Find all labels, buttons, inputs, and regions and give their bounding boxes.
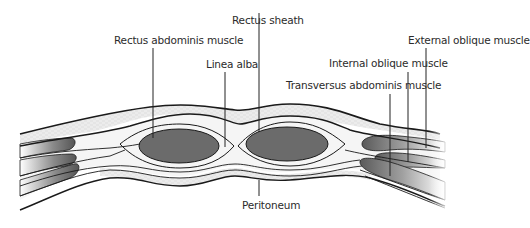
label-peritoneum: Peritoneum	[242, 199, 300, 211]
rectus-abdominis-right	[246, 127, 328, 161]
label-internal-oblique: Internal oblique muscle	[329, 57, 448, 69]
label-transversus-abdominis: Transversus abdominis muscle	[286, 79, 441, 91]
rectus-abdominis-left	[139, 129, 219, 163]
label-rectus-abdominis: Rectus abdominis muscle	[114, 34, 243, 46]
label-external-oblique: External oblique muscle	[408, 34, 530, 46]
label-linea-alba: Linea alba	[206, 58, 258, 70]
label-rectus-sheath: Rectus sheath	[232, 14, 304, 26]
